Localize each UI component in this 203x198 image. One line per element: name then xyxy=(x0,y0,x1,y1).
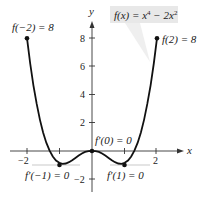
x-axis-arrow-icon xyxy=(177,149,184,154)
label-fprime-1: f′(1) = 0 xyxy=(107,169,144,182)
label-fprime-0: f′(0) = 0 xyxy=(95,134,132,147)
y-tick-label: −2 xyxy=(74,174,85,185)
callout-pointer xyxy=(125,23,150,62)
y-tick-label: 4 xyxy=(80,89,85,100)
y-tick-label: 8 xyxy=(80,33,85,44)
function-label: f(x) = x4 − 2x2 xyxy=(114,9,178,22)
label-f-2: f(2) = 8 xyxy=(162,33,197,46)
x-tick-label: −2 xyxy=(18,155,29,166)
point-fp0 xyxy=(90,149,95,154)
x-axis-label: x xyxy=(186,144,192,156)
y-tick-label: 2 xyxy=(80,117,85,128)
point-fm2 xyxy=(25,36,30,41)
point-fp1 xyxy=(122,163,127,168)
label-fprime-minus-1: f′(−1) = 0 xyxy=(25,169,70,182)
point-fpm1 xyxy=(57,163,62,168)
y-axis-label: y xyxy=(88,5,94,17)
function-graph: f(x) = x4 − 2x2 x y −2 2 8 6 4 2 −2 f(− xyxy=(0,0,203,198)
label-f-minus-2: f(−2) = 8 xyxy=(12,21,54,34)
y-axis-arrow-icon xyxy=(90,21,95,28)
point-f2 xyxy=(155,36,160,41)
x-tick-label: 2 xyxy=(153,155,158,166)
y-tick-label: 6 xyxy=(80,61,85,72)
